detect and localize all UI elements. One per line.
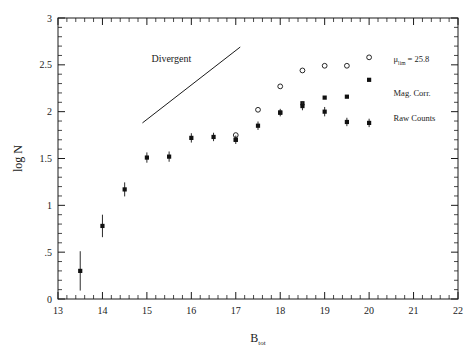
y-axis-minor-ticks bbox=[58, 27, 458, 289]
y-tick-label: 1 bbox=[47, 200, 52, 211]
raw-counts-series-label: Raw Counts bbox=[394, 113, 436, 123]
y-tick-label: 1.5 bbox=[40, 153, 53, 164]
raw-counts-series bbox=[78, 102, 371, 291]
mag-corr-series-label-main: Mag. Corr. bbox=[394, 88, 431, 98]
series-labels-group: μlim = 25.8Mag. Corr.Raw Counts bbox=[394, 54, 436, 123]
data-point-filled bbox=[189, 136, 193, 140]
x-axis-title-subscript: tot bbox=[258, 339, 265, 347]
y-tick-label: 2.5 bbox=[40, 59, 53, 70]
x-tick-label: 19 bbox=[320, 305, 330, 316]
y-axis-title: log N bbox=[11, 145, 25, 172]
x-tick-label: 22 bbox=[453, 305, 463, 316]
chart-page: 13141516171819202122 0.511.522.53 Btot l… bbox=[0, 0, 475, 353]
data-point-open-circle bbox=[278, 84, 283, 89]
y-axis-tick-labels: 0.511.522.53 bbox=[40, 13, 53, 305]
x-tick-label: 20 bbox=[364, 305, 374, 316]
x-tick-label: 15 bbox=[142, 305, 152, 316]
x-axis-title: Btot bbox=[250, 331, 265, 347]
data-point-open-circle bbox=[367, 55, 372, 60]
x-tick-label: 18 bbox=[275, 305, 285, 316]
data-point-filled bbox=[367, 121, 371, 125]
y-axis-title-text: log N bbox=[11, 145, 25, 172]
x-tick-label: 14 bbox=[97, 305, 107, 316]
data-point-filled bbox=[256, 124, 260, 128]
data-point-open-circle bbox=[256, 107, 261, 112]
mu-lim-series-label: μlim = 25.8 bbox=[394, 54, 430, 65]
y-tick-label: 3 bbox=[47, 13, 52, 24]
data-point-open-circle bbox=[322, 63, 327, 68]
data-point-filled bbox=[145, 155, 149, 159]
data-point-open-circle bbox=[344, 63, 349, 68]
mu-lim-series-label-suffix: = 25.8 bbox=[405, 54, 429, 64]
log-n-vs-btot-scatter-plot: 13141516171819202122 0.511.522.53 Btot l… bbox=[0, 0, 475, 353]
x-tick-label: 13 bbox=[53, 305, 63, 316]
data-point-filled bbox=[323, 110, 327, 114]
divergent-annotation: Divergent bbox=[151, 53, 191, 64]
x-axis-minor-ticks bbox=[67, 18, 449, 299]
svg-text:Btot: Btot bbox=[250, 331, 265, 347]
x-axis-title-main: B bbox=[250, 331, 258, 345]
data-point-filled-square bbox=[323, 96, 327, 100]
y-tick-label: 2 bbox=[47, 106, 52, 117]
data-point-filled bbox=[167, 155, 171, 159]
data-point-filled bbox=[234, 138, 238, 142]
data-point-open-circle bbox=[300, 68, 305, 73]
y-tick-label: 0 bbox=[47, 294, 52, 305]
data-point-filled bbox=[278, 111, 282, 115]
raw-counts-series-label-main: Raw Counts bbox=[394, 113, 436, 123]
x-axis-tick-labels: 13141516171819202122 bbox=[53, 305, 463, 316]
y-tick-label: .5 bbox=[45, 247, 53, 258]
x-tick-label: 17 bbox=[231, 305, 241, 316]
data-point-filled bbox=[300, 104, 304, 108]
mag-corr-series-label: Mag. Corr. bbox=[394, 88, 431, 98]
annotations-group: Divergent bbox=[151, 53, 191, 64]
data-point-filled bbox=[78, 269, 82, 273]
x-tick-label: 16 bbox=[186, 305, 196, 316]
mu-lim-series bbox=[233, 55, 371, 138]
data-point-filled bbox=[211, 135, 215, 139]
data-point-filled bbox=[123, 187, 127, 191]
data-series-group bbox=[78, 55, 371, 291]
data-point-filled bbox=[100, 224, 104, 228]
data-point-filled-square bbox=[367, 78, 371, 82]
x-tick-label: 21 bbox=[409, 305, 419, 316]
data-point-filled-square bbox=[345, 95, 349, 99]
data-point-filled bbox=[345, 120, 349, 124]
